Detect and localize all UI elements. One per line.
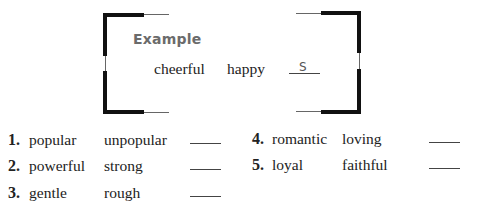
example-word-1: cheerful [154,60,205,78]
item-number: 4. [252,130,264,148]
bracket-right-vert-upper [357,11,361,53]
bracket-left-vert-gap [105,56,106,71]
bracket-left-vert-upper [103,13,107,56]
item-word-1: romantic [272,130,327,148]
bracket-left-vert-lower [103,71,107,114]
bracket-left-top-thick [103,13,144,17]
item-number: 3. [8,184,20,202]
answer-blank[interactable] [190,196,221,197]
answer-blank[interactable] [429,142,460,143]
bracket-right-bottom-thick [321,110,361,114]
bracket-right-vert-gap [359,53,360,69]
item-word-2: rough [104,184,140,202]
item-number: 2. [8,157,20,175]
item-word-2: strong [104,157,143,175]
bracket-right-bottom-thin [296,111,321,112]
answer-blank[interactable] [190,169,221,170]
item-word-1: powerful [29,157,85,175]
item-word-2: loving [342,130,382,148]
item-word-1: loyal [272,156,303,174]
item-word-1: popular [29,131,76,149]
item-word-2: unpopular [104,131,167,149]
bracket-right-top-thin [296,13,321,14]
example-word-2: happy [227,60,265,78]
answer-blank[interactable] [190,143,221,144]
answer-blank[interactable] [429,168,460,169]
item-word-2: faithful [342,156,388,174]
bracket-left-bottom-thick [103,110,144,114]
example-answer: S [299,60,307,74]
item-number: 5. [252,156,264,174]
example-label: Example [133,31,201,47]
bracket-left-top-thin [144,14,169,15]
bracket-right-vert-lower [357,69,361,114]
bracket-right-top-thick [321,11,361,15]
item-word-1: gentle [29,184,67,202]
item-number: 1. [8,131,20,149]
bracket-left-bottom-thin [144,112,169,113]
example-answer-line [289,73,320,74]
